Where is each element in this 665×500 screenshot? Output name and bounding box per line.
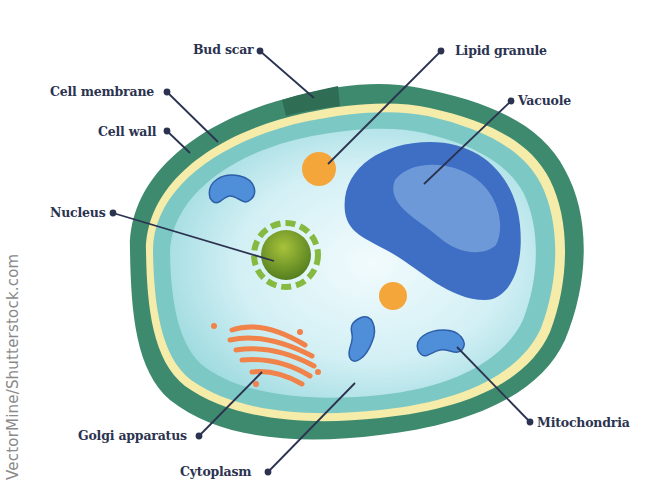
label-cell-wall: Cell wall — [98, 124, 156, 139]
label-bud-scar: Bud scar — [193, 42, 253, 57]
image-credit: VectorMine/Shutterstock.com — [4, 254, 22, 480]
label-cytoplasm: Cytoplasm — [180, 464, 251, 479]
lipid-granule-small-shape — [379, 282, 407, 310]
label-vacuole: Vacuole — [518, 93, 571, 108]
yeast-cell-diagram: Bud scar Lipid granule Cell membrane Vac… — [0, 0, 665, 500]
label-lipid-granule: Lipid granule — [455, 43, 547, 58]
nucleus-shape — [261, 230, 311, 280]
label-nucleus: Nucleus — [50, 205, 106, 220]
label-cell-membrane: Cell membrane — [50, 84, 154, 99]
lipid-granule-shape — [302, 152, 336, 186]
label-mitochondria: Mitochondria — [537, 415, 630, 430]
label-golgi-apparatus: Golgi apparatus — [78, 428, 187, 443]
